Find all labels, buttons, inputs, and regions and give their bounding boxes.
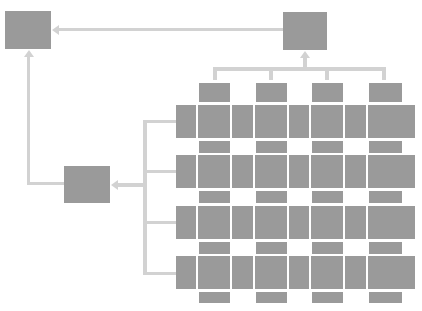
grid-cap: [199, 191, 230, 203]
grid-cap: [369, 141, 402, 153]
grid-main-block: [198, 206, 230, 239]
grid-filler-block: [176, 206, 196, 239]
grid-main-block: [368, 105, 415, 138]
grid-filler-block: [345, 256, 366, 289]
grid-main-block: [255, 206, 287, 239]
grid-filler-block: [232, 256, 253, 289]
grid-cap: [256, 292, 287, 303]
grid-main-block: [368, 206, 415, 239]
grid-filler-block: [176, 256, 196, 289]
grid-filler-block: [232, 206, 253, 239]
grid-filler-block: [289, 155, 309, 188]
block-grid: [0, 0, 422, 311]
grid-cap: [369, 242, 402, 254]
grid-cap: [199, 83, 230, 102]
grid-filler-block: [345, 105, 366, 138]
grid-cap: [256, 83, 287, 102]
grid-main-block: [311, 256, 343, 289]
grid-filler-block: [345, 155, 366, 188]
grid-filler-block: [176, 155, 196, 188]
grid-main-block: [368, 155, 415, 188]
grid-cap: [199, 292, 230, 303]
grid-cap: [369, 292, 402, 303]
grid-cap: [369, 191, 402, 203]
grid-filler-block: [345, 206, 366, 239]
grid-main-block: [255, 105, 287, 138]
grid-cap: [256, 242, 287, 254]
grid-filler-block: [289, 105, 309, 138]
grid-main-block: [198, 155, 230, 188]
grid-cap: [256, 191, 287, 203]
grid-cap: [369, 83, 402, 102]
grid-cap: [312, 292, 343, 303]
grid-main-block: [198, 256, 230, 289]
grid-filler-block: [176, 105, 196, 138]
grid-filler-block: [289, 206, 309, 239]
grid-cap: [312, 141, 343, 153]
grid-filler-block: [232, 105, 253, 138]
grid-cap: [312, 191, 343, 203]
grid-main-block: [311, 155, 343, 188]
grid-main-block: [311, 105, 343, 138]
grid-main-block: [311, 206, 343, 239]
grid-cap: [312, 83, 343, 102]
grid-main-block: [368, 256, 415, 289]
grid-filler-block: [232, 155, 253, 188]
grid-cap: [312, 242, 343, 254]
grid-filler-block: [289, 256, 309, 289]
grid-cap: [256, 141, 287, 153]
grid-main-block: [198, 105, 230, 138]
grid-cap: [199, 141, 230, 153]
grid-main-block: [255, 155, 287, 188]
grid-cap: [199, 242, 230, 254]
grid-main-block: [255, 256, 287, 289]
